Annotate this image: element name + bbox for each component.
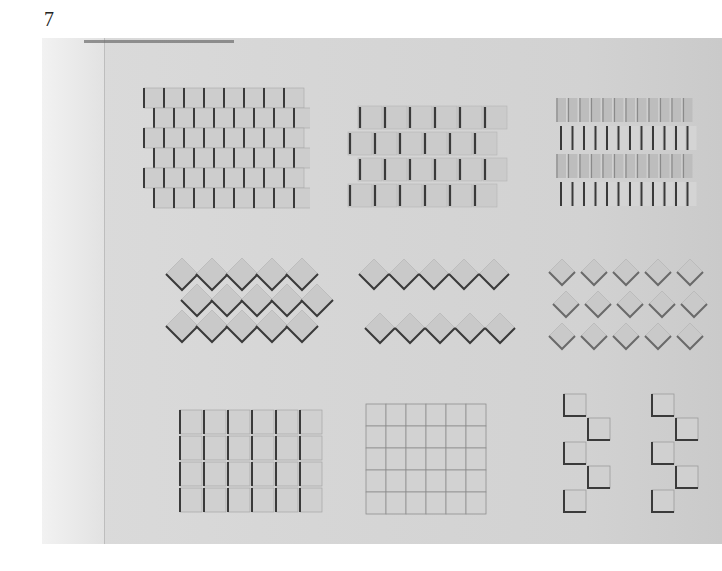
sample-checkerboard <box>560 390 710 516</box>
sample-diamond-bands <box>350 252 520 356</box>
sample-vertical-slats <box>550 94 700 212</box>
page-number: 7 <box>44 8 54 31</box>
relief-photograph <box>42 38 722 544</box>
sample-square-flaps <box>176 406 328 518</box>
sample-diamond-spaced <box>542 252 712 356</box>
sample-fine-grid <box>360 400 490 518</box>
sample-woven-squares <box>138 84 310 212</box>
sample-diamond-scales <box>158 252 338 352</box>
photo-left-margin <box>42 38 104 544</box>
sample-staggered-tiles <box>342 104 510 212</box>
panel-edge <box>104 38 105 544</box>
panel-top-shadow <box>84 40 234 43</box>
